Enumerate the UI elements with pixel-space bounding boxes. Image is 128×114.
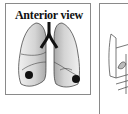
second-view-panel — [99, 3, 128, 114]
left-lung — [54, 23, 80, 87]
lungs-illustration — [6, 4, 92, 96]
nodule-icon — [25, 71, 33, 79]
partial-illustration — [100, 4, 128, 114]
nodule-icon — [72, 75, 80, 83]
right-lung — [19, 23, 46, 86]
anterior-view-panel: Anterior view — [5, 3, 91, 95]
